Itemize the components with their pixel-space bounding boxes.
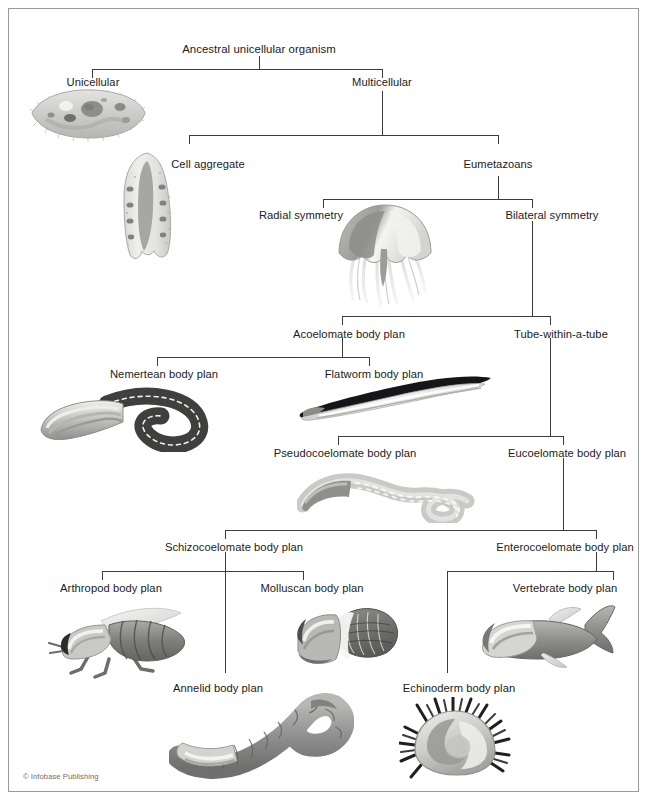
connector-arthropod-drop <box>102 571 103 580</box>
connector-multicellular-stem <box>382 91 383 135</box>
connector-level6-bar <box>225 530 596 531</box>
node-multicellular: Multicellular <box>352 76 412 89</box>
connector-schizo-bar <box>102 571 303 572</box>
connector-cellaggregate-drop <box>189 135 190 144</box>
connector-eumetazoans-drop <box>498 135 499 144</box>
copyright-notice: © Infobase Publishing <box>23 772 99 781</box>
connector-pseudocoelomate-drop <box>338 436 339 445</box>
node-arthropod-body-plan: Arthropod body plan <box>60 582 162 595</box>
connector-ancestral-stem <box>259 56 260 69</box>
jellyfish-illustration <box>327 199 442 309</box>
connector-vertebrate-drop <box>613 571 614 580</box>
node-acoelomate-body-plan: Acoelomate body plan <box>293 328 405 341</box>
node-eucoelomate-body-plan: Eucoelomate body plan <box>508 447 626 460</box>
paramecium-illustration <box>26 85 151 143</box>
connector-bilateral-stem <box>532 221 533 316</box>
sponge-illustration <box>116 151 178 263</box>
mollusc-illustration <box>290 601 406 673</box>
node-nemertean-body-plan: Nemertean body plan <box>110 368 218 381</box>
connector-eucoelomate-stem <box>563 458 564 530</box>
node-echinoderm-body-plan: Echinoderm body plan <box>403 682 515 695</box>
connector-annelid-drop <box>225 571 226 673</box>
connector-molluscan-drop <box>303 571 304 580</box>
connector-acoelomate-bar <box>157 357 369 358</box>
connector-acoelomate-drop <box>342 316 343 325</box>
connector-tube-bar <box>338 436 563 437</box>
connector-radial-drop <box>323 199 324 208</box>
connector-entero-stem <box>596 552 597 571</box>
connector-level2-bar <box>189 135 498 136</box>
node-cell-aggregate: Cell aggregate <box>171 158 245 171</box>
connector-tubewithin-stem <box>550 338 551 436</box>
connector-schizo-stem <box>225 552 226 571</box>
nemertean-worm-illustration <box>37 382 213 452</box>
connector-nemertean-drop <box>157 357 158 366</box>
node-tube-within-a-tube: Tube-within-a-tube <box>514 328 608 341</box>
figure-page: Ancestral unicellular organism Unicellul… <box>0 0 649 808</box>
arthropod-insect-illustration <box>47 599 202 679</box>
node-vertebrate-body-plan: Vertebrate body plan <box>513 582 617 595</box>
connector-level4-bar <box>342 316 550 317</box>
flatworm-illustration <box>295 372 495 424</box>
connector-bilateral-drop <box>532 199 533 208</box>
node-bilateral-symmetry: Bilateral symmetry <box>505 209 598 222</box>
connector-entero-drop <box>596 530 597 539</box>
figure-border: Ancestral unicellular organism Unicellul… <box>8 8 639 792</box>
node-ancestral-unicellular-organism: Ancestral unicellular organism <box>182 43 336 56</box>
connector-echinoderm-drop <box>447 571 448 673</box>
connector-flatworm-drop <box>369 357 370 366</box>
node-eumetazoans: Eumetazoans <box>463 158 532 171</box>
connector-level1-bar <box>92 69 382 70</box>
pseudocoelomate-roundworm-illustration <box>297 457 487 523</box>
node-schizocoelomate-body-plan: Schizocoelomate body plan <box>165 541 303 554</box>
node-molluscan-body-plan: Molluscan body plan <box>260 582 363 595</box>
annelid-earthworm-illustration <box>169 693 354 783</box>
connector-entero-bar <box>447 571 613 572</box>
echinoderm-sea-urchin-illustration <box>399 697 511 783</box>
connector-eumetazoans-stem <box>498 176 499 199</box>
connector-eucoelomate-drop <box>563 436 564 445</box>
connector-schizo-drop <box>225 530 226 539</box>
connector-tubewithin-drop <box>550 316 551 325</box>
vertebrate-fish-illustration <box>475 597 617 675</box>
node-enterocoelomate-body-plan: Enterocoelomate body plan <box>496 541 634 554</box>
